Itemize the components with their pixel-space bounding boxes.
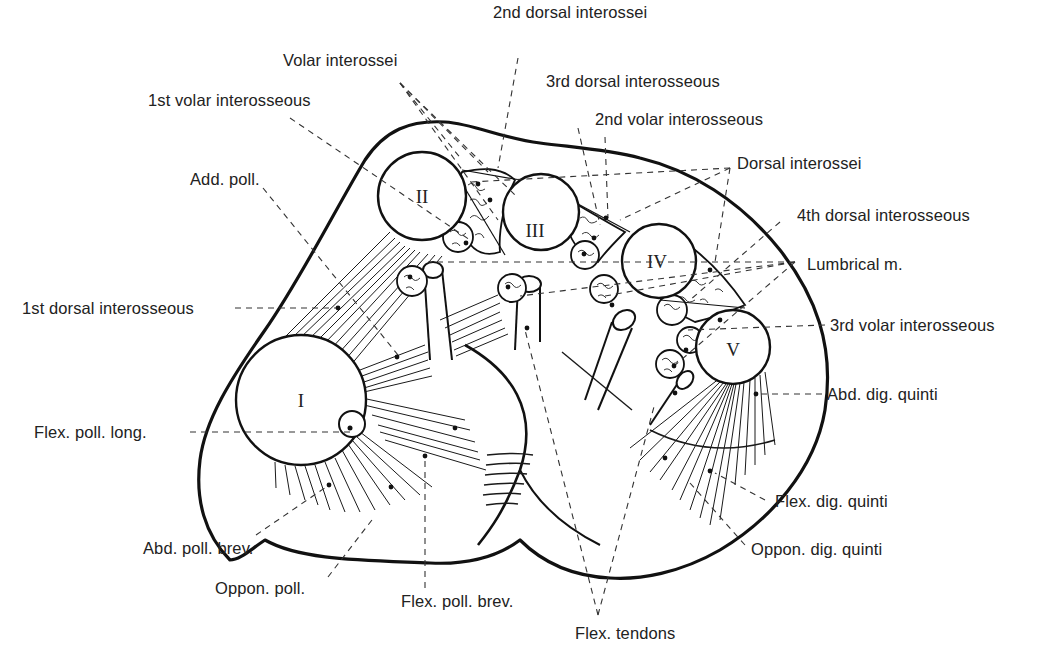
label-2nd-volar-interosseous: 2nd volar interosseous bbox=[595, 111, 763, 128]
label-add-poll: Add. poll. bbox=[190, 171, 260, 188]
bone-label-V: V bbox=[726, 339, 740, 360]
flexor-tendon-ring bbox=[562, 306, 639, 410]
adductor-pollicis-fibres bbox=[360, 295, 508, 392]
label-oppon-poll: Oppon. poll. bbox=[215, 580, 305, 597]
metacarpal-III: III bbox=[503, 174, 579, 250]
label-volar-interossei: Volar interossei bbox=[283, 52, 397, 69]
metacarpal-IV: IV bbox=[622, 224, 696, 298]
flexor-pollicis-longus-tendon bbox=[339, 411, 365, 437]
label-flex-tendons: Flex. tendons bbox=[575, 625, 675, 642]
label-2nd-dorsal-interossei: 2nd dorsal interossei bbox=[493, 4, 647, 21]
label-dorsal-interossei: Dorsal interossei bbox=[737, 155, 862, 172]
label-1st-volar-interosseous: 1st volar interosseous bbox=[148, 92, 311, 109]
hypothenar-fibres bbox=[630, 372, 775, 525]
bone-label-III: III bbox=[526, 220, 545, 241]
hypothenar-inner-curve bbox=[520, 470, 600, 545]
bone-label-I: I bbox=[298, 390, 304, 411]
thenar-boundary bbox=[465, 345, 526, 545]
label-abd-poll-brev: Abd. poll. brev. bbox=[143, 540, 253, 557]
flexor-tendon-index bbox=[423, 262, 452, 360]
label-flex-poll-long: Flex. poll. long. bbox=[34, 424, 147, 441]
label-3rd-dorsal-interosseous: 3rd dorsal interosseous bbox=[546, 73, 720, 90]
label-flex-dig-quinti: Flex. dig. quinti bbox=[775, 493, 888, 510]
label-1st-dorsal-interosseous: 1st dorsal interosseous bbox=[22, 300, 194, 317]
label-flex-poll-brev: Flex. poll. brev. bbox=[401, 593, 513, 610]
label-4th-dorsal-interosseous: 4th dorsal interosseous bbox=[797, 207, 970, 224]
metacarpal-V: V bbox=[696, 310, 770, 384]
metacarpal-II: II bbox=[378, 152, 466, 240]
label-oppon-dig-quinti: Oppon. dig. quinti bbox=[751, 541, 882, 558]
label-lumbrical: Lumbrical m. bbox=[807, 256, 903, 273]
metacarpal-I: I bbox=[236, 335, 366, 465]
label-abd-dig-quinti: Abd. dig. quinti bbox=[827, 386, 938, 403]
label-3rd-volar-interosseous: 3rd volar interosseous bbox=[830, 317, 995, 334]
bone-label-II: II bbox=[416, 186, 429, 207]
